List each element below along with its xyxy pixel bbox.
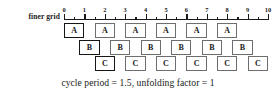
task-box-b: B xyxy=(171,40,191,55)
schedule-diagram: finer grid 012345678910 AAAAAABBBBBBCCCC… xyxy=(0,0,276,94)
task-box-a: A xyxy=(95,23,115,38)
task-box-a: A xyxy=(217,23,237,38)
axis-tick-minor xyxy=(156,17,157,21)
figure-caption: cycle period = 1.5, unfolding factor = 1 xyxy=(0,77,276,88)
task-box-a: A xyxy=(186,23,206,38)
axis-tick-major xyxy=(105,14,106,21)
axis-tick-minor xyxy=(135,17,136,21)
axis-tick-major xyxy=(146,14,147,21)
task-box-a: A xyxy=(156,23,176,38)
task-box-b: B xyxy=(232,40,252,55)
axis-tick-minor xyxy=(197,17,198,21)
task-box-a: A xyxy=(64,23,84,38)
task-box-c: C xyxy=(248,56,268,71)
task-box-c: C xyxy=(156,56,176,71)
task-box-c: C xyxy=(125,56,145,71)
axis-tick-minor xyxy=(237,17,238,21)
axis-tick-major xyxy=(248,14,249,21)
axis-tick-major xyxy=(186,14,187,21)
axis-tick-minor xyxy=(74,17,75,21)
axis-tick-label: 6 xyxy=(185,6,188,13)
axis-tick-label: 3 xyxy=(124,6,127,13)
axis-tick-minor xyxy=(95,17,96,21)
task-box-b: B xyxy=(110,40,130,55)
axis-tick-major xyxy=(227,14,228,21)
axis-tick-label: 8 xyxy=(226,6,229,13)
axis-tick-label: 10 xyxy=(265,6,271,13)
axis-tick-label: 7 xyxy=(205,6,208,13)
axis-tick-minor xyxy=(258,17,259,21)
task-box-b: B xyxy=(202,40,222,55)
axis-tick-major xyxy=(125,14,126,21)
axis-tick-major xyxy=(84,14,85,21)
task-box-c: C xyxy=(186,56,206,71)
axis-tick-label: 0 xyxy=(62,6,65,13)
finer-grid-label: finer grid xyxy=(8,12,60,21)
axis-tick-label: 2 xyxy=(103,6,106,13)
axis-tick-major xyxy=(166,14,167,21)
plot-area: 012345678910 AAAAAABBBBBBCCCCCC xyxy=(64,10,268,72)
axis-tick-label: 9 xyxy=(246,6,249,13)
axis-tick-minor xyxy=(217,17,218,21)
task-box-c: C xyxy=(95,56,115,71)
axis-tick-label: 5 xyxy=(164,6,167,13)
axis-tick-major xyxy=(207,14,208,21)
task-box-b: B xyxy=(141,40,161,55)
axis-tick-label: 4 xyxy=(144,6,147,13)
task-box-b: B xyxy=(79,40,99,55)
axis-tick-minor xyxy=(115,17,116,21)
axis-tick-major xyxy=(268,14,269,21)
task-box-a: A xyxy=(125,23,145,38)
axis-tick-major xyxy=(64,14,65,21)
task-box-c: C xyxy=(217,56,237,71)
axis-tick-minor xyxy=(176,17,177,21)
axis-tick-label: 1 xyxy=(83,6,86,13)
